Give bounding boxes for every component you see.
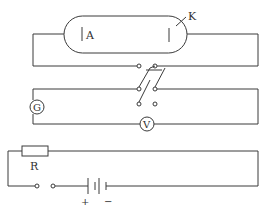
key-switch [35,184,55,188]
voltmeter-label: V [142,119,151,130]
reversing-switch [137,64,165,106]
anode-label: A [85,29,95,42]
cathode-label: K [188,10,197,23]
tube-loop-wires [33,34,258,66]
minus-label: − [104,196,112,207]
phototube [64,16,187,53]
circuit-svg: A K G [0,0,268,217]
resistor-label: R [30,160,39,173]
galvanometer-label: G [33,102,41,113]
plus-label: + [81,196,89,207]
resistor [22,146,48,156]
battery [88,178,106,194]
circuit-diagram: A K G [0,0,268,217]
